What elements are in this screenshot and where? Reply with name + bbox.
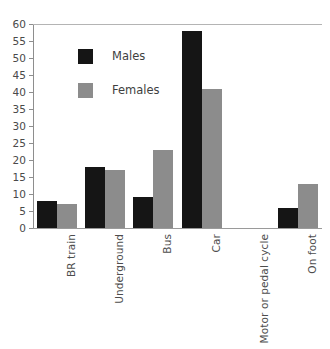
y-axis-tick-label: 5 <box>19 206 26 217</box>
bar-group <box>182 24 222 228</box>
legend-label-males: Males <box>112 46 145 67</box>
x-axis-tick-label: Motor or pedal cycle <box>257 234 271 344</box>
x-axis-tick-label: BR train <box>64 234 78 344</box>
y-axis-tick: 5 <box>0 206 33 217</box>
y-axis-tick: 55 <box>0 36 33 47</box>
bar-females <box>57 204 77 228</box>
y-axis-tick-label: 10 <box>12 189 26 200</box>
y-axis-tick-label: 15 <box>12 172 26 183</box>
females-swatch-icon <box>78 83 93 98</box>
y-axis-tick-label: 30 <box>12 121 26 132</box>
bar-males <box>37 201 57 228</box>
bar-females <box>298 184 318 228</box>
plot-area <box>33 24 322 228</box>
y-axis-tick: 40 <box>0 87 33 98</box>
x-axis-tick-label: On foot <box>305 234 319 344</box>
bar-females <box>105 170 125 228</box>
bar-males <box>133 197 153 228</box>
bar-females <box>202 89 222 228</box>
y-axis-tick-label: 50 <box>12 53 26 64</box>
y-axis-tick: 15 <box>0 172 33 183</box>
y-axis-tick: 20 <box>0 155 33 166</box>
y-axis-tick: 60 <box>0 19 33 30</box>
y-axis-tick: 45 <box>0 70 33 81</box>
y-axis-tick-label: 55 <box>12 36 26 47</box>
y-axis-tick-label: 0 <box>19 223 26 234</box>
bar-chart-figure: 051015202530354045505560 BR trainUndergr… <box>0 0 330 349</box>
y-axis-tick: 30 <box>0 121 33 132</box>
x-axis-tick-label: Car <box>209 234 223 344</box>
y-axis-tick: 25 <box>0 138 33 149</box>
bar-group <box>37 24 77 228</box>
x-axis-line <box>33 228 322 229</box>
y-axis-tick-label: 25 <box>12 138 26 149</box>
y-axis-tick: 35 <box>0 104 33 115</box>
bar-females <box>153 150 173 228</box>
y-axis-tick: 0 <box>0 223 33 234</box>
x-axis-tick-label: Bus <box>160 234 174 344</box>
legend-label-females: Females <box>112 80 160 101</box>
bar-group <box>230 24 270 228</box>
y-axis-tick-label: 40 <box>12 87 26 98</box>
bar-group <box>278 24 318 228</box>
x-axis-tick-label: Underground <box>112 234 126 344</box>
y-axis-tick: 50 <box>0 53 33 64</box>
bar-males <box>182 31 202 228</box>
males-swatch-icon <box>78 49 93 64</box>
bar-males <box>278 208 298 228</box>
y-axis-tick-label: 60 <box>12 19 26 30</box>
y-axis-tick-label: 35 <box>12 104 26 115</box>
y-axis-tick-label: 45 <box>12 70 26 81</box>
y-axis-tick: 10 <box>0 189 33 200</box>
bar-males <box>85 167 105 228</box>
y-axis-tick-label: 20 <box>12 155 26 166</box>
